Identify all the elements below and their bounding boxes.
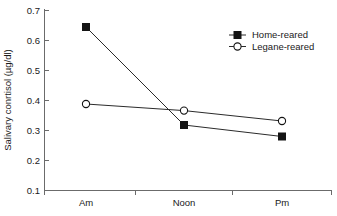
series-legane-reared xyxy=(82,100,285,124)
y-tick-label-1: 0.6 xyxy=(27,35,40,46)
data-point-legane-reared-noon xyxy=(180,107,187,114)
y-tick-label-6: 0.1 xyxy=(27,185,40,196)
y-tick-label-2: 0.5 xyxy=(27,65,40,76)
x-category-label-am: Am xyxy=(79,197,93,208)
legend-marker-open-circle-icon xyxy=(234,43,241,50)
y-tick-label-3: 0.4 xyxy=(27,95,40,106)
data-point-legane-reared-am xyxy=(82,100,89,107)
y-tick-label-0: 0.7 xyxy=(27,5,40,16)
data-point-home-reared-noon xyxy=(181,122,188,129)
data-point-legane-reared-pm xyxy=(278,117,285,124)
y-axis-title: Salivary conrtisol (µg/dl) xyxy=(2,49,13,151)
line-chart: Salivary conrtisol (µg/dl) 0.7 0.6 0.5 0… xyxy=(0,0,337,216)
chart-container: Salivary conrtisol (µg/dl) 0.7 0.6 0.5 0… xyxy=(0,0,337,216)
x-category-label-noon: Noon xyxy=(173,197,196,208)
legend-label-legane-reared: Legane-reared xyxy=(252,41,314,52)
chart-legend: Home-reared Legane-reared xyxy=(229,29,314,52)
y-tick-label-4: 0.3 xyxy=(27,125,40,136)
data-point-home-reared-am xyxy=(83,24,90,31)
legend-marker-filled-square-icon xyxy=(234,32,241,39)
legend-entry-home-reared: Home-reared xyxy=(229,29,308,40)
data-point-home-reared-pm xyxy=(279,133,286,140)
legend-label-home-reared: Home-reared xyxy=(252,29,308,40)
x-category-label-pm: Pm xyxy=(275,197,289,208)
legend-entry-legane-reared: Legane-reared xyxy=(229,41,314,52)
y-tick-label-5: 0.2 xyxy=(27,155,40,166)
